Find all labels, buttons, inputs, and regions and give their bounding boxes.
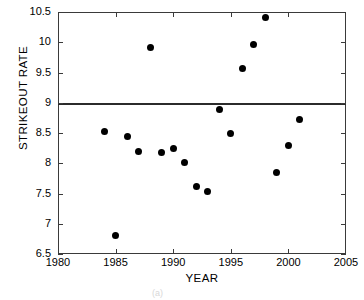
data-point: [296, 116, 303, 123]
data-point: [193, 183, 200, 190]
data-point: [158, 149, 165, 156]
y-axis-tick-right: [341, 133, 346, 134]
y-axis-tick: [58, 12, 63, 13]
data-point: [170, 145, 177, 152]
x-axis-tick: [173, 249, 174, 254]
y-axis-tick: [58, 163, 63, 164]
x-axis-tick-top: [288, 12, 289, 17]
x-axis-tick-label: 1995: [201, 256, 261, 268]
data-point: [285, 142, 292, 149]
y-axis-tick: [58, 133, 63, 134]
y-axis-tick-right: [341, 194, 346, 195]
y-axis-tick-label: 7: [0, 218, 54, 229]
data-point: [101, 128, 108, 135]
data-point: [239, 65, 246, 72]
data-point: [262, 14, 269, 21]
data-point: [147, 44, 154, 51]
y-axis-tick-right: [341, 254, 346, 255]
x-axis-title: YEAR: [58, 272, 346, 284]
y-axis-tick: [58, 103, 63, 104]
data-point: [227, 130, 234, 137]
y-axis-tick-right: [341, 42, 346, 43]
y-axis-tick: [58, 224, 63, 225]
x-axis-tick-top: [173, 12, 174, 17]
plot-area: [58, 12, 346, 254]
x-axis-tick-label: 1985: [86, 256, 146, 268]
y-axis-tick-right: [341, 73, 346, 74]
data-point: [273, 169, 280, 176]
x-axis-tick: [231, 249, 232, 254]
data-point: [204, 188, 211, 195]
y-axis-tick-right: [341, 163, 346, 164]
y-axis-tick: [58, 194, 63, 195]
y-axis-tick-right: [341, 12, 346, 13]
y-axis-tick: [58, 42, 63, 43]
y-axis-tick-right: [341, 224, 346, 225]
data-point: [250, 41, 257, 48]
x-axis-tick-top: [231, 12, 232, 17]
data-point: [181, 159, 188, 166]
x-axis-tick-label: 2000: [258, 256, 318, 268]
x-axis-tick-label: 1980: [28, 256, 88, 268]
y-axis-tick-label: 7.5: [0, 188, 54, 199]
chart-figure: 6.577.588.599.51010.51980198519901995200…: [0, 0, 364, 300]
x-axis-tick: [116, 249, 117, 254]
x-axis-tick: [288, 249, 289, 254]
data-point: [112, 232, 119, 239]
x-axis-tick-label: 2005: [316, 256, 364, 268]
data-point: [216, 106, 223, 113]
x-axis-tick-label: 1990: [143, 256, 203, 268]
horizontal-reference-line: [58, 103, 346, 105]
y-axis-tick: [58, 254, 63, 255]
y-axis-tick-right: [341, 103, 346, 104]
x-axis-tick-top: [116, 12, 117, 17]
data-point: [124, 133, 131, 140]
scan-artifact: (a): [152, 288, 163, 298]
y-axis-tick: [58, 73, 63, 74]
y-axis-title: STRIKEOUT RATE: [17, 13, 29, 183]
data-point: [135, 148, 142, 155]
